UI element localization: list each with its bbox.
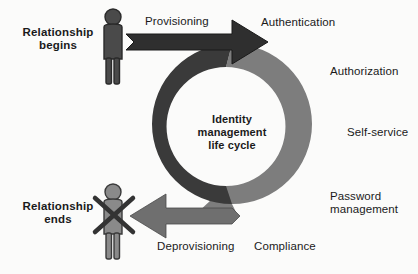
stage-label-authorization: Authorization (330, 65, 398, 78)
transition-label-provisioning: Provisioning (145, 15, 209, 28)
person-icon (104, 9, 122, 84)
endpoint-label-relationship-ends: Relationship ends (12, 200, 104, 226)
transition-label-deprovisioning: Deprovisioning (157, 240, 234, 253)
stage-label-authentication: Authentication (261, 16, 335, 29)
endpoint-label-relationship-begins: Relationship begins (12, 26, 104, 52)
diagram-canvas: Relationship begins Relationship ends Pr… (0, 0, 418, 274)
stage-label-self-service: Self-service (347, 126, 408, 139)
stage-label-password-management: Password management (330, 190, 398, 216)
stage-label-compliance: Compliance (254, 240, 316, 253)
center-title: Identity management life cycle (185, 113, 279, 152)
